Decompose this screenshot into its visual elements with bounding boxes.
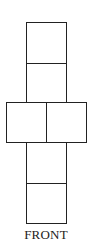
net-square-bottom-1 bbox=[26, 142, 67, 184]
net-square-top-1 bbox=[26, 22, 67, 64]
net-square-middle-right bbox=[46, 102, 87, 143]
front-label: FRONT bbox=[0, 227, 92, 242]
net-square-bottom-2 bbox=[26, 183, 67, 224]
net-square-top-2 bbox=[26, 63, 67, 103]
net-square-middle-left bbox=[6, 102, 47, 143]
